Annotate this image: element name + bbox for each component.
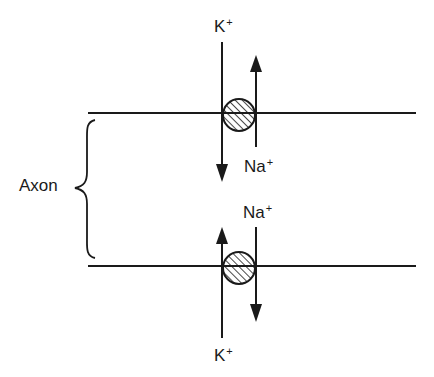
- axon-ion-exchange-diagram: K+ Na+ Na+ K+ Axon: [0, 0, 434, 377]
- na-up-arrowhead-icon: [250, 55, 262, 72]
- k-bottom-label: K+: [214, 346, 233, 364]
- na-lower-label: Na+: [243, 203, 272, 221]
- k-down-arrowhead-icon: [216, 164, 228, 182]
- na-upper-label: Na+: [244, 157, 273, 175]
- diagram-graphics: [0, 0, 434, 377]
- axon-label: Axon: [19, 177, 58, 194]
- k-top-label: K+: [214, 17, 233, 35]
- lower-channel: [216, 227, 262, 338]
- na-down-arrowhead-icon: [250, 304, 262, 322]
- axon-brace-icon: [75, 120, 95, 258]
- upper-pump-circle: [223, 99, 255, 131]
- k-up-arrowhead-icon: [216, 227, 228, 244]
- lower-pump-circle: [223, 252, 255, 284]
